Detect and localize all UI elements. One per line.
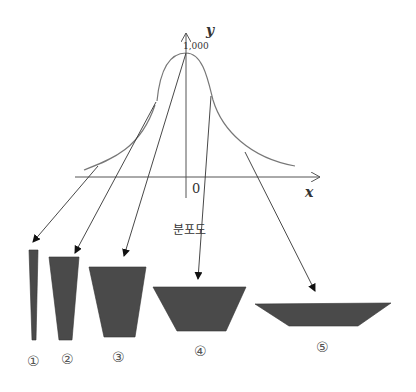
shape-2 (49, 257, 79, 340)
x-axis-label: x (305, 184, 313, 200)
shape-1-label: ① (27, 353, 40, 369)
distribution-curve-left-tail (84, 105, 155, 170)
distribution-curve (157, 53, 295, 166)
arrow-to-shape-5 (245, 152, 315, 291)
distribution-label: 분포도 (173, 220, 206, 237)
shape-1 (29, 250, 38, 340)
shape-4 (153, 287, 246, 331)
shape-4-label: ④ (194, 343, 207, 359)
shape-5-label: ⑤ (316, 339, 329, 355)
shape-2-label: ② (61, 351, 74, 367)
shape-5 (255, 303, 391, 326)
peak-value-label: 1,000 (183, 41, 209, 51)
shape-3 (89, 267, 146, 337)
shape-3-label: ③ (112, 349, 125, 365)
arrow-to-shape-1 (33, 166, 98, 242)
y-axis-label: y (206, 22, 214, 38)
distribution-diagram (0, 0, 416, 392)
origin-label: 0 (192, 181, 200, 196)
